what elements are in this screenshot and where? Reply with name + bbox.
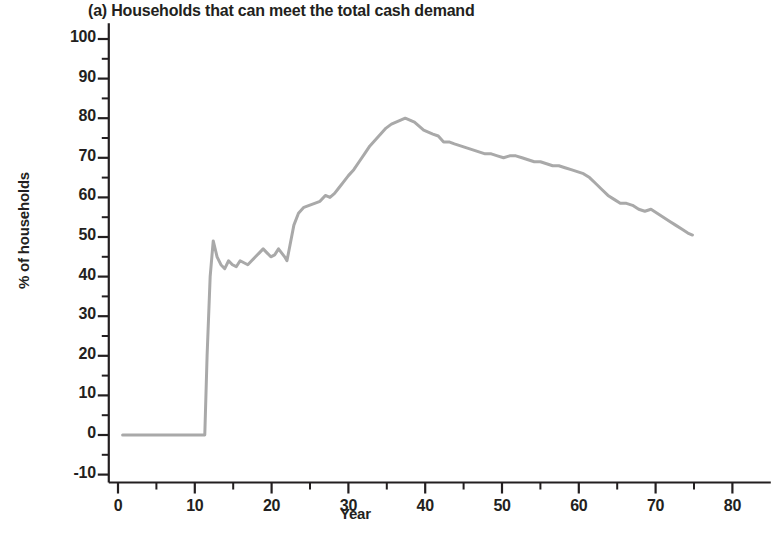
data-series-line — [123, 118, 693, 435]
y-tick-label: 100 — [50, 28, 96, 46]
y-tick-label: 90 — [50, 68, 96, 86]
x-tick-label: 80 — [712, 497, 752, 515]
y-tick-label: 80 — [50, 107, 96, 125]
y-tick-label: 0 — [50, 424, 96, 442]
y-tick-label: 10 — [50, 384, 96, 402]
x-tick-label: 50 — [482, 497, 522, 515]
y-tick-label: 60 — [50, 186, 96, 204]
x-tick-label: 70 — [636, 497, 676, 515]
y-tick-label: -10 — [50, 464, 96, 482]
y-tick-label: 70 — [50, 147, 96, 165]
x-tick-label: 0 — [98, 497, 138, 515]
x-tick-label: 30 — [328, 497, 368, 515]
line-chart-plot — [0, 0, 782, 533]
figure-container: (a) Households that can meet the total c… — [0, 0, 782, 533]
y-tick-label: 40 — [50, 266, 96, 284]
y-tick-label: 30 — [50, 305, 96, 323]
y-tick-label: 50 — [50, 226, 96, 244]
y-tick-label: 20 — [50, 345, 96, 363]
x-tick-label: 40 — [405, 497, 445, 515]
x-tick-label: 60 — [559, 497, 599, 515]
x-tick-label: 20 — [252, 497, 292, 515]
x-tick-label: 10 — [175, 497, 215, 515]
